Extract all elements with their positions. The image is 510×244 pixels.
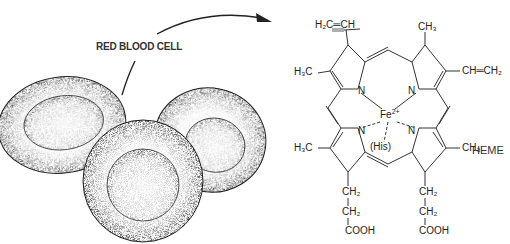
- iron-center: Fe2+: [380, 108, 400, 120]
- nitrogen-bottom-left: N: [358, 126, 365, 136]
- nitrogen-bottom-right: N: [408, 126, 415, 136]
- methyl-left-upper: H₃C: [294, 67, 313, 77]
- heme-structure: [318, 29, 460, 225]
- right-chain-ch2-1: CH₂: [419, 187, 437, 197]
- red-blood-cell-label: RED BLOOD CELL: [96, 41, 182, 52]
- vinyl-top-left: H₂C═CH: [315, 20, 355, 30]
- histidine-ligand: (His): [370, 142, 391, 152]
- rbc-front: [83, 120, 203, 242]
- pointer-arrow: [122, 13, 272, 95]
- left-chain-cooh: COOH: [345, 226, 375, 236]
- methyl-top-right: CH₃: [418, 22, 437, 32]
- nitrogen-top-left: N: [358, 86, 365, 96]
- iron-charge: 2+: [392, 108, 400, 115]
- right-chain-ch2-2: CH₂: [419, 207, 437, 217]
- methyl-left-lower: H₃C: [294, 143, 313, 153]
- right-chain-cooh: COOH: [419, 226, 449, 236]
- red-blood-cells: [0, 69, 276, 242]
- heme-label: HEME: [472, 144, 504, 156]
- left-chain-ch2-1: CH₂: [342, 187, 360, 197]
- nitrogen-top-right: N: [408, 86, 415, 96]
- vinyl-right-upper: CH═CH₂: [462, 66, 502, 76]
- left-chain-ch2-2: CH₂: [342, 207, 360, 217]
- diagram: RED BLOOD CELL H₂C═CH CH₃ H₃C CH═CH₂ H₃C…: [0, 0, 510, 244]
